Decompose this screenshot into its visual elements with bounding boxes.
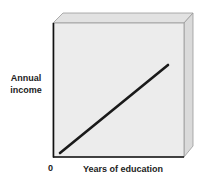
plot-area: [53, 23, 184, 157]
origin-label: 0: [48, 163, 53, 173]
y-axis-label: Annual income: [6, 72, 46, 96]
x-axis-label: Years of education: [83, 164, 163, 174]
box-top-face: [53, 13, 193, 23]
y-axis-label-line1: Annual: [6, 72, 46, 84]
box-side-face: [184, 13, 193, 157]
y-axis-label-line2: income: [6, 84, 46, 96]
